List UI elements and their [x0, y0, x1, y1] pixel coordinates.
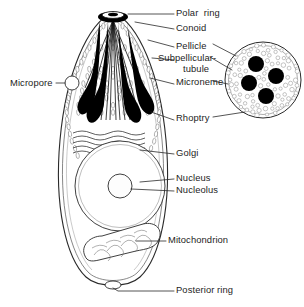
polar-ring — [98, 12, 128, 23]
label-nucleolus: Nucleolus — [176, 185, 218, 196]
nucleolus — [108, 174, 132, 198]
label-mitochondrion: Mitochondrion — [168, 235, 228, 246]
apicomplexan-zoite-figure — [0, 0, 304, 307]
label-golgi: Golgi — [176, 148, 198, 159]
label-microneme: Microneme — [176, 77, 223, 88]
label-micropore: Micropore — [10, 78, 53, 89]
micropore — [65, 76, 79, 90]
label-subpellicular-tubule: Subpellicular- — [158, 53, 216, 64]
label-subpellicular-tubule-line2: tubule — [183, 64, 209, 75]
label-pellicle: Pellicle — [176, 41, 207, 52]
label-polar-ring: Polar ring — [176, 8, 220, 19]
label-conoid: Conoid — [176, 23, 206, 34]
leader-conoid — [135, 22, 174, 29]
leader-pellicle — [148, 40, 174, 47]
leader-posterior-ring — [113, 288, 174, 291]
nucleus — [75, 141, 165, 231]
cross-section-inset — [225, 42, 301, 118]
leader-rhoptry-inset — [213, 112, 245, 117]
label-nucleus: Nucleus — [176, 173, 211, 184]
leader-pellicle-inset — [213, 44, 236, 56]
label-rhoptry: Rhoptry — [176, 113, 210, 124]
diagram-canvas: Polar ring Conoid Pellicle Subpellicular… — [0, 0, 304, 307]
label-posterior-ring: Posterior ring — [176, 285, 233, 296]
